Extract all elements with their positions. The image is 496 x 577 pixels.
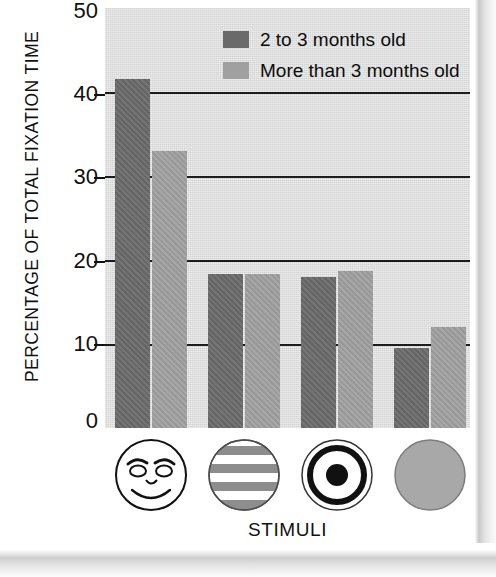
y-tick-label-20: 20: [56, 250, 98, 272]
plot-area: 2 to 3 months old More than 3 months old: [105, 8, 470, 428]
legend-item-2to3months: 2 to 3 months old: [223, 26, 460, 53]
legend-label-morethan3months: More than 3 months old: [260, 61, 460, 80]
y-tick-40: [94, 94, 105, 96]
bar-face-2to3months: [115, 79, 150, 428]
plain-circle-stimulus-icon: [391, 436, 469, 514]
bar-stripes-morethan3months: [245, 274, 280, 428]
legend-swatch-2to3months: [223, 31, 249, 48]
y-tick-label-30: 30: [56, 166, 98, 188]
page-edge-bottom: [0, 543, 496, 577]
legend-item-morethan3months: More than 3 months old: [223, 57, 460, 84]
y-tick-10: [94, 344, 105, 346]
bar-plaincircle-morethan3months: [431, 327, 466, 428]
bar-stripes-2to3months: [208, 274, 243, 428]
bar-bullseye-2to3months: [301, 277, 336, 428]
y-tick-label-50: 50: [56, 0, 98, 22]
y-tick-20: [94, 261, 105, 263]
y-tick-label-40: 40: [56, 83, 98, 105]
y-axis-title: PERCENTAGE OF TOTAL FIXATION TIME: [22, 7, 43, 407]
legend-label-2to3months: 2 to 3 months old: [260, 30, 406, 49]
bullseye-stimulus-icon: [298, 436, 376, 514]
page-edge-right: [470, 0, 496, 577]
bar-plaincircle-2to3months: [394, 348, 429, 428]
x-axis-title: STIMULI: [105, 519, 470, 541]
legend-swatch-morethan3months: [223, 62, 249, 79]
y-axis-labels: 50 40 30 20 10 0: [42, 0, 98, 436]
face-stimulus-icon: [112, 436, 190, 514]
y-tick-30: [94, 177, 105, 179]
bar-face-morethan3months: [152, 151, 187, 428]
stripes-stimulus-icon: [205, 436, 283, 514]
y-tick-label-10: 10: [56, 333, 98, 355]
y-tick-label-0: 0: [56, 410, 98, 432]
bar-bullseye-morethan3months: [338, 271, 373, 428]
legend: 2 to 3 months old More than 3 months old: [223, 26, 460, 88]
stimuli-icon-row: [105, 432, 470, 518]
chart-page: 50 40 30 20 10 0 PERCENTAGE OF TOTAL FIX…: [0, 0, 496, 577]
